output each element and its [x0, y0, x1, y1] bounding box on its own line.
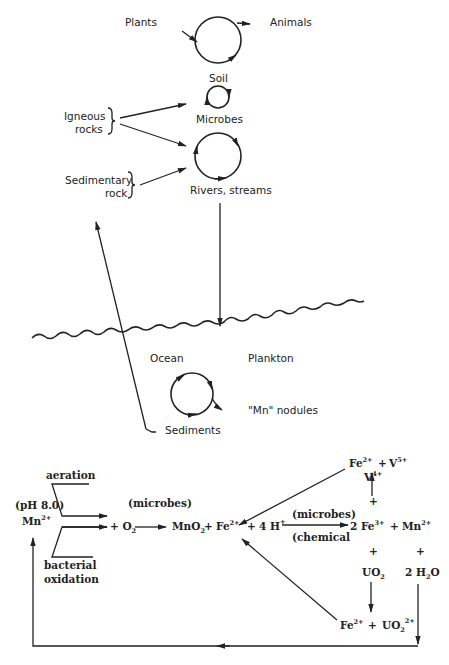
plus-6: + [368, 619, 377, 631]
mn-nodules-label: "Mn" nodules [248, 404, 318, 416]
microbes-label: Microbes [196, 113, 243, 125]
plus-v4: + [369, 495, 378, 507]
sediments-label: Sediments [165, 424, 221, 436]
ph-label: (pH 8.0) [15, 499, 64, 511]
plus-1: + [204, 520, 213, 532]
microbes-catalyst-label: (microbes) [128, 497, 192, 509]
fe2-v5-fe: Fe2+ [349, 456, 373, 469]
mn2-product: Mn2+ [402, 519, 431, 532]
plus-2: + [247, 520, 256, 532]
h2o-term: 2 H2O [405, 566, 440, 581]
v5-term: V5+ [388, 456, 407, 469]
o2-term: + O2 [110, 520, 136, 535]
uo2-2plus: UO22+ [382, 617, 415, 634]
igneous-label-2: rocks [75, 123, 103, 135]
sea-surface-wave [32, 300, 364, 339]
igneous-brace [108, 108, 115, 134]
aeration-label: aeration [46, 469, 96, 481]
h-term: 4 H+ [259, 518, 285, 532]
soil-microbes-cycle [207, 86, 229, 108]
soil-label: Soil [209, 72, 228, 84]
sedimentary-label-2: rock [105, 187, 128, 199]
mn-label: Mn2+ [22, 514, 51, 527]
plus-4: + [369, 545, 378, 557]
plus-3: + [390, 520, 399, 532]
rivers-streams-label: Rivers, streams [190, 184, 272, 196]
oxidation-label: oxidation [44, 573, 99, 585]
chemical-label: (chemical [292, 531, 350, 543]
microbes-catalyst-label-2: (microbes) [292, 508, 356, 520]
plants-animals-cycle [182, 17, 250, 63]
rivers-streams-cycle [195, 133, 241, 179]
igneous-label-1: Igneous [64, 110, 105, 122]
bacterial-oxidation-arrow [52, 527, 107, 557]
ocean-cycle [171, 373, 222, 415]
uo2-term: UO2 [362, 566, 385, 581]
fe3-term: 2 Fe3+ [350, 519, 385, 532]
fe2-final: Fe2+ [340, 618, 364, 631]
plus-5: + [416, 545, 425, 557]
plankton-label: Plankton [248, 352, 294, 364]
fe2-term: Fe2+ [216, 519, 240, 532]
plus-v: + [378, 457, 387, 469]
return-loop-arrow [33, 538, 418, 646]
plants-label: Plants [125, 16, 157, 28]
ocean-label: Ocean [150, 352, 184, 364]
bacterial-label: bacterial [44, 559, 96, 571]
animals-label: Animals [270, 16, 312, 28]
manganese-cycle-diagram: Plants Animals Soil Microbes Igneous roc… [0, 0, 449, 665]
sedimentary-label-1: Sedimentary [65, 174, 132, 186]
mno2-term: MnO2 [172, 520, 205, 535]
